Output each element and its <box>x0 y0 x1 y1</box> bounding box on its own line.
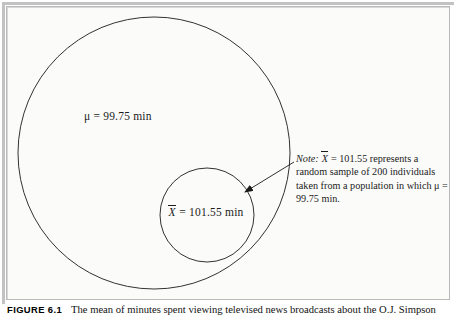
sample-value: 101.55 <box>189 206 222 218</box>
note-pointer-arrow <box>245 162 294 192</box>
figure-screenshot: μ = 99.75 min X = 101.55 min Note: X = 1… <box>0 0 463 319</box>
sample-units: min <box>225 206 244 218</box>
population-equals: = <box>93 110 100 122</box>
figure-caption: Figure 6.1The mean of minutes spent view… <box>7 303 459 319</box>
note-xbar-symbol: X <box>321 152 328 165</box>
population-value: 99.75 <box>103 110 130 122</box>
figure-number-label: Figure 6.1 <box>7 304 62 315</box>
population-mean-label: μ = 99.75 min <box>84 110 152 122</box>
figure-caption-text: The mean of minutes spent viewing televi… <box>71 304 436 315</box>
population-units: min <box>133 110 152 122</box>
sample-equals: = <box>179 206 186 218</box>
population-mu-symbol: μ <box>84 110 90 122</box>
sample-mean-label: X = 101.55 min <box>168 206 243 218</box>
sample-xbar-symbol: X <box>168 206 176 218</box>
note-line3-before-mu: a population in which <box>343 180 434 191</box>
population-circle <box>18 17 290 289</box>
note-prefix: Note: <box>296 153 319 164</box>
note-annotation: Note: X = 101.55 represents a random sam… <box>296 152 448 206</box>
